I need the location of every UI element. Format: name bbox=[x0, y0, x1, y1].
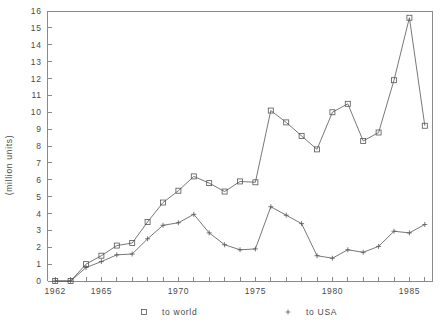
legend-label: to world bbox=[162, 307, 197, 317]
y-tick-label: 0 bbox=[36, 276, 41, 286]
y-tick-label: 16 bbox=[31, 6, 42, 16]
x-tick-label: 1975 bbox=[245, 286, 266, 296]
line-chart: 012345678910111213141516 196219651970197… bbox=[0, 0, 445, 327]
y-tick-label: 11 bbox=[31, 90, 41, 100]
x-tick-label: 1962 bbox=[45, 286, 66, 296]
y-tick-label: 1 bbox=[36, 259, 41, 269]
y-tick-label: 3 bbox=[36, 225, 41, 235]
x-tick-label: 1970 bbox=[168, 286, 189, 296]
y-tick-label: 14 bbox=[31, 40, 42, 50]
y-axis-title: (million units) bbox=[4, 135, 14, 196]
y-tick-label: 5 bbox=[36, 192, 41, 202]
y-tick-label: 9 bbox=[36, 124, 41, 134]
y-tick-label: 10 bbox=[31, 107, 42, 117]
x-tick-label: 1985 bbox=[399, 286, 420, 296]
x-tick-label: 1980 bbox=[322, 286, 343, 296]
y-tick-label: 6 bbox=[36, 175, 41, 185]
chart-container: 012345678910111213141516 196219651970197… bbox=[0, 0, 445, 327]
y-tick-label: 15 bbox=[31, 23, 42, 33]
x-tick-label: 1965 bbox=[91, 286, 112, 296]
y-tick-label: 13 bbox=[31, 57, 42, 67]
legend-label: to USA bbox=[306, 307, 337, 317]
y-tick-label: 8 bbox=[36, 141, 41, 151]
y-tick-label: 2 bbox=[36, 242, 41, 252]
y-tick-label: 4 bbox=[36, 209, 41, 219]
y-axis-title-text: (million units) bbox=[4, 135, 14, 196]
y-tick-label: 7 bbox=[36, 158, 41, 168]
y-tick-label: 12 bbox=[31, 74, 42, 84]
